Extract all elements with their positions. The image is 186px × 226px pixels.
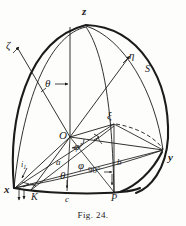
point-label-O: O [59, 130, 67, 141]
angle-label-phi-prime: φ' [74, 142, 82, 152]
point-label-a: a [56, 158, 61, 167]
point-label-K: K [31, 192, 38, 202]
point-label-c: c [65, 195, 69, 204]
chord-xi-y [114, 124, 163, 150]
direction-label-eta: η [129, 50, 134, 61]
point-label-i1: i1 [21, 161, 26, 170]
point-label-S: S [145, 64, 150, 74]
ray-eta [70, 57, 129, 137]
point-label-P: P [111, 193, 117, 203]
axis-label-x: x [4, 184, 10, 195]
axis-label-y: y [168, 152, 173, 163]
caption-text: Fig. 24. [78, 210, 109, 220]
point-label-b: b [117, 158, 122, 167]
angle-label-theta-lower: θ [60, 170, 65, 181]
angle-label-phi: φ [78, 160, 84, 171]
angle-label-90deg: 90° [88, 166, 101, 175]
arc-at-O-right [98, 137, 102, 144]
direction-label-xi: ξ [107, 110, 112, 121]
axis-label-z: z [82, 6, 86, 17]
arrow-zeta [13, 47, 19, 53]
ray-xi [70, 124, 114, 137]
figure-line-art [0, 0, 186, 226]
direction-label-zeta: ζ [6, 40, 10, 51]
line-O-c [67, 137, 70, 191]
dashed-arc-xi-y [116, 124, 163, 149]
figure-24-container: z x y ζ η S ξ O θ φ' a φ b 90° θ i1 K c … [0, 0, 186, 226]
angle-label-theta-upper: θ [45, 78, 50, 89]
figure-caption: Fig. 24. [0, 210, 186, 220]
